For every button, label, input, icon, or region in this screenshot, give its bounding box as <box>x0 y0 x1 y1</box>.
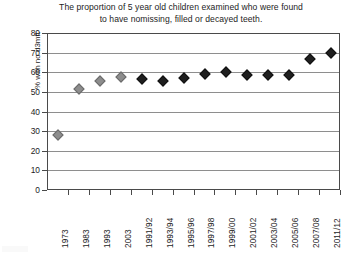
x-tick-mark <box>214 190 215 195</box>
data-point <box>178 72 189 83</box>
x-tick-label: 1997/98 <box>207 218 216 248</box>
y-tick-label: 80 <box>0 29 40 37</box>
chart-title-line-2: to have nomissing, filled or decayed tee… <box>0 14 362 26</box>
x-tick-mark <box>298 190 299 195</box>
x-tick-mark <box>131 190 132 195</box>
x-tick-mark <box>340 190 341 195</box>
x-tick-mark <box>256 190 257 195</box>
x-tick-label: 1993/94 <box>166 218 175 248</box>
x-tick-label: 1995/96 <box>187 218 196 248</box>
y-tick-label: 0 <box>0 186 40 194</box>
y-tick-label: 60 <box>0 68 40 76</box>
y-tick-label: 50 <box>0 88 40 96</box>
x-tick-label: 1991/92 <box>145 218 154 248</box>
data-point <box>157 75 168 86</box>
data-point <box>325 47 336 58</box>
x-tick-mark <box>110 190 111 195</box>
x-tick-label: 2007/08 <box>312 218 321 248</box>
chart-container: The proportion of 5 year old children ex… <box>0 0 362 256</box>
x-tick-label: 2005/06 <box>291 218 300 248</box>
x-tick-label: 2003/04 <box>270 218 279 248</box>
scan-artifact <box>2 246 28 252</box>
y-tick-label: 10 <box>0 166 40 174</box>
chart-title-line-1: The proportion of 5 year old children ex… <box>0 2 362 14</box>
x-tick-label: 1983 <box>82 229 91 248</box>
x-tick-label: 2001/02 <box>249 218 258 248</box>
data-point <box>241 70 252 81</box>
x-tick-label: 1999/00 <box>228 218 237 248</box>
gridline <box>48 112 339 113</box>
x-tick-mark <box>235 190 236 195</box>
x-tick-mark <box>89 190 90 195</box>
y-tick-label: 40 <box>0 108 40 116</box>
data-point <box>137 73 148 84</box>
x-axis-labels: 19731983199320031991/921993/941995/96199… <box>47 196 340 252</box>
x-tick-label: 2011/12 <box>333 218 342 248</box>
gridline <box>48 92 339 93</box>
x-tick-label: 1973 <box>61 229 70 248</box>
gridline <box>48 131 339 132</box>
y-tick-label: 20 <box>0 147 40 155</box>
data-point <box>220 67 231 78</box>
x-tick-mark <box>173 190 174 195</box>
data-point <box>95 75 106 86</box>
x-tick-mark <box>277 190 278 195</box>
x-tick-label: 2003 <box>124 229 133 248</box>
data-point <box>262 70 273 81</box>
data-point <box>304 53 315 64</box>
data-point <box>199 69 210 80</box>
gridline <box>48 170 339 171</box>
x-tick-mark <box>319 190 320 195</box>
data-point <box>283 70 294 81</box>
plot-area <box>47 33 340 190</box>
data-point <box>74 83 85 94</box>
gridline <box>48 72 339 73</box>
gridline <box>48 151 339 152</box>
x-tick-label: 1993 <box>103 229 112 248</box>
y-tick-label: 70 <box>0 49 40 57</box>
gridline <box>48 53 339 54</box>
y-tick-label: 30 <box>0 127 40 135</box>
x-tick-mark <box>68 190 69 195</box>
y-axis-ticks: 80706050403020100 <box>0 33 47 190</box>
chart-title: The proportion of 5 year old children ex… <box>0 2 362 25</box>
x-tick-mark <box>152 190 153 195</box>
x-tick-mark <box>194 190 195 195</box>
